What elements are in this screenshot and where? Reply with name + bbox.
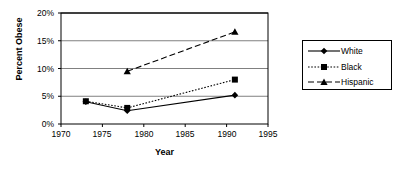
legend-item-hispanic: Hispanic xyxy=(303,74,393,90)
legend-item-black: Black xyxy=(303,59,393,75)
legend-label-black: Black xyxy=(341,62,362,72)
obesity-trend-chart: Percent Obese Year 20% 15% 10% 5% 0% 197… xyxy=(0,0,402,169)
legend-swatch-black xyxy=(303,60,341,74)
legend-swatch-hispanic xyxy=(303,75,341,89)
axis-ticks xyxy=(58,13,268,127)
gridlines xyxy=(61,13,268,96)
legend-label-white: White xyxy=(341,46,363,56)
legend-label-hispanic: Hispanic xyxy=(341,77,374,87)
legend-item-white: White xyxy=(303,43,393,59)
legend: White Black Hispanic xyxy=(302,40,392,90)
legend-swatch-white xyxy=(303,44,341,58)
